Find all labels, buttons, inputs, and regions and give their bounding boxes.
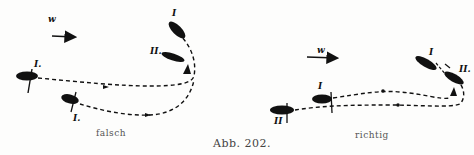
marker-dot: [396, 103, 400, 107]
panel-label-richtig: richtig: [355, 130, 389, 140]
boat-label: I: [172, 8, 176, 18]
boat-label: II.: [150, 46, 162, 56]
wind-label-left: w: [48, 14, 56, 24]
wind-label-right: w: [317, 45, 325, 55]
boat-icon: [312, 95, 332, 104]
boat-icon: [414, 54, 439, 73]
panel-richtig: [270, 54, 466, 123]
wind-arrow-icon: [52, 36, 74, 37]
direction-arrow-icon: [145, 113, 151, 117]
course-path-1: [333, 91, 450, 98]
pointer-mark-icon: [445, 64, 450, 68]
panel-falsch: [16, 19, 195, 117]
boat-icon: [16, 72, 38, 81]
boat-label: II.: [459, 64, 471, 74]
diagram-svg: [0, 0, 474, 155]
boat-icon: [161, 50, 186, 64]
marker-dot: [381, 89, 385, 93]
boat-label: I: [429, 47, 433, 57]
buoy-icon: [183, 64, 191, 74]
boat-label: I: [318, 81, 322, 91]
boat-icon: [60, 92, 80, 105]
figure-canvas: w I II. I. I. falsch Abb. 202. w I II. I…: [0, 0, 474, 155]
panel-label-falsch: falsch: [96, 128, 126, 138]
boat-icon: [166, 19, 188, 41]
figure-caption: Abb. 202.: [213, 137, 271, 150]
wind-arrow-icon: [307, 57, 336, 58]
direction-arrow-icon: [103, 85, 109, 89]
buoy-icon: [450, 87, 457, 96]
boat-label: II: [274, 116, 282, 126]
boat-icon: [270, 106, 294, 115]
oar-icon: [331, 92, 332, 113]
course-path-1: [38, 35, 195, 86]
boat-label: I.: [73, 113, 80, 123]
boat-label: I.: [34, 59, 41, 69]
